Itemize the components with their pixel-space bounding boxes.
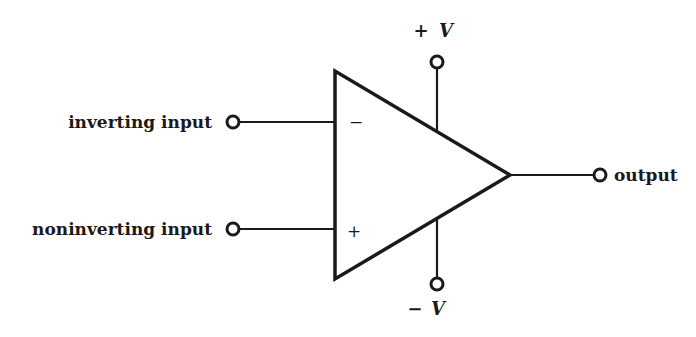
output-label: output bbox=[614, 165, 678, 185]
noninverting-sign: + bbox=[347, 221, 361, 241]
negative-supply-symbol: V bbox=[431, 298, 447, 319]
positive-supply-terminal bbox=[431, 56, 443, 68]
negative-supply-terminal bbox=[431, 278, 443, 290]
noninverting-input-label: noninverting input bbox=[32, 219, 212, 239]
noninverting-input-terminal bbox=[227, 223, 239, 235]
op-amp-diagram: inverting input − noninverting input + o… bbox=[0, 0, 696, 337]
positive-supply-symbol: V bbox=[439, 20, 455, 41]
positive-supply-sign: + bbox=[413, 20, 428, 41]
output-terminal bbox=[594, 169, 606, 181]
inverting-sign: − bbox=[349, 112, 363, 132]
op-amp-triangle bbox=[335, 71, 510, 279]
inverting-input-terminal bbox=[227, 116, 239, 128]
negative-supply-sign: − bbox=[407, 298, 422, 319]
inverting-input-label: inverting input bbox=[68, 112, 212, 132]
